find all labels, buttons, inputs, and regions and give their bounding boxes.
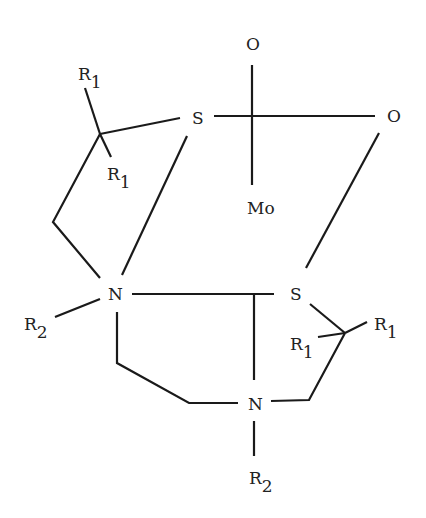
bond-s-upper-n-left — [122, 136, 187, 275]
bond-c1-s-upper — [100, 118, 180, 134]
atom-mo: Mo — [247, 198, 275, 218]
substituent-r2-left: R2 — [24, 314, 48, 342]
bond-s-lower-c2 — [310, 304, 345, 333]
bond-c2-r1-right — [345, 322, 367, 333]
substituent-r1-right: R1 — [374, 314, 398, 342]
bond-r2-n-left — [55, 299, 100, 317]
bond-c1-r1-top — [85, 88, 100, 134]
substituent-r1-top: R1 — [78, 64, 102, 92]
atom-n-left: N — [108, 284, 123, 304]
atom-o-top: O — [246, 34, 260, 54]
chemical-structure-diagram: O O Mo S S N N R1 R1 R1 R1 R2 R2 — [0, 0, 426, 518]
bond-o-right-s-lower — [306, 133, 379, 268]
atom-o-right: O — [387, 106, 401, 126]
atom-n-bottom: N — [248, 394, 263, 414]
bond-c1-ch2-n-left — [53, 134, 100, 278]
substituent-labels: R1 R1 R1 R1 R2 R2 — [24, 64, 398, 496]
bond-n-left-ch2-ch2-n-bottom — [117, 312, 238, 403]
atom-s-lower: S — [290, 284, 302, 304]
substituent-r1-mid: R1 — [107, 164, 131, 192]
bond-c2-r1-lower-left — [318, 333, 345, 337]
substituent-r1-lower-left: R1 — [290, 334, 314, 362]
substituent-r2-bottom: R2 — [249, 468, 273, 496]
bond-c1-r1-mid — [100, 134, 111, 157]
bonds — [53, 65, 379, 456]
atom-s-upper: S — [192, 108, 204, 128]
